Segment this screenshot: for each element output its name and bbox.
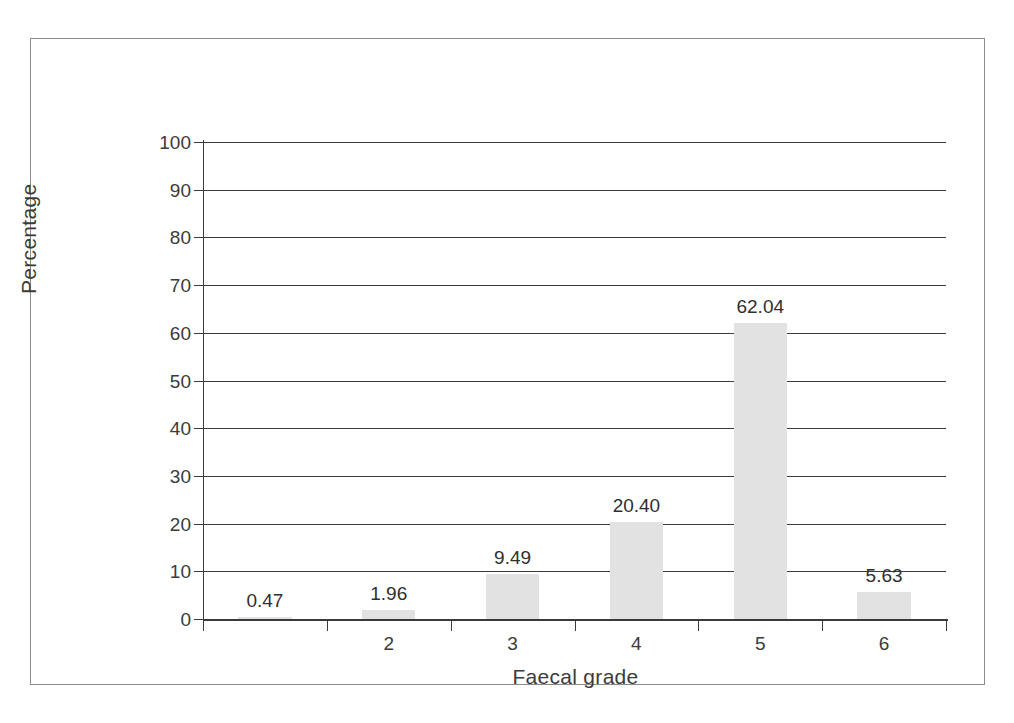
gridline	[203, 142, 946, 143]
bar-value-label: 5.63	[866, 566, 903, 585]
bar	[238, 617, 291, 619]
y-tick-label: 40	[170, 419, 191, 438]
gridline	[203, 381, 946, 382]
y-tick-label: 10	[170, 562, 191, 581]
y-tick-mark	[194, 476, 203, 477]
y-tick-label: 90	[170, 181, 191, 200]
y-axis-tick-labels: 0102030405060708090100	[123, 142, 191, 619]
x-tick-label: 2	[383, 634, 394, 653]
y-tick-label: 20	[170, 515, 191, 534]
bar	[610, 522, 663, 619]
x-tick-mark	[822, 620, 823, 631]
y-tick-label: 80	[170, 228, 191, 247]
y-tick-label: 100	[159, 133, 191, 152]
x-tick-mark	[698, 620, 699, 631]
y-tick-mark	[194, 285, 203, 286]
x-tick-label: 6	[879, 634, 890, 653]
bar	[362, 610, 415, 619]
x-tick-mark	[946, 620, 947, 631]
y-tick-mark	[194, 428, 203, 429]
gridline	[203, 476, 946, 477]
y-tick-label: 0	[180, 610, 191, 629]
x-tick-label: 3	[507, 634, 518, 653]
y-tick-label: 30	[170, 467, 191, 486]
x-tick-mark	[575, 620, 576, 631]
x-axis-tick-marks	[203, 620, 948, 632]
x-tick-label: 4	[631, 634, 642, 653]
bar-value-label: 20.40	[613, 496, 661, 515]
bar	[734, 323, 787, 619]
x-tick-label: 5	[755, 634, 766, 653]
gridline	[203, 237, 946, 238]
y-tick-mark	[194, 142, 203, 143]
plot-area: 0.471.969.4920.4062.045.63	[203, 142, 946, 619]
y-tick-mark	[194, 333, 203, 334]
y-tick-mark	[194, 381, 203, 382]
gridline	[203, 285, 946, 286]
gridline	[203, 190, 946, 191]
bar-value-label: 1.96	[370, 584, 407, 603]
y-tick-mark	[194, 190, 203, 191]
gridline	[203, 571, 946, 572]
bar	[486, 574, 539, 619]
x-axis-title: Faecal grade	[203, 665, 948, 689]
gridline	[203, 428, 946, 429]
gridline	[203, 524, 946, 525]
y-tick-mark	[194, 571, 203, 572]
x-axis-tick-labels: 23456	[203, 634, 948, 662]
y-tick-mark	[194, 237, 203, 238]
x-tick-mark	[203, 620, 204, 631]
y-tick-mark	[194, 619, 203, 620]
bar-value-label: 9.49	[494, 548, 531, 567]
gridline	[203, 333, 946, 334]
figure-border: 0102030405060708090100 0.471.969.4920.40…	[30, 38, 985, 685]
y-tick-label: 70	[170, 276, 191, 295]
x-tick-mark	[451, 620, 452, 631]
bar-value-label: 62.04	[736, 297, 784, 316]
bar	[857, 592, 910, 619]
y-tick-mark	[194, 524, 203, 525]
y-axis-title: Percentage	[17, 184, 41, 294]
figure-page: 0102030405060708090100 0.471.969.4920.40…	[0, 0, 1014, 723]
x-tick-mark	[327, 620, 328, 631]
y-tick-label: 50	[170, 372, 191, 391]
bar-value-label: 0.47	[246, 591, 283, 610]
y-tick-label: 60	[170, 324, 191, 343]
